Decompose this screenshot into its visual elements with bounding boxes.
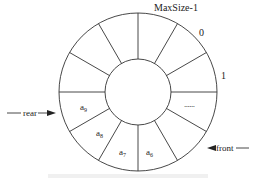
element-a8: a8 [96, 128, 103, 139]
slot-divider [70, 109, 110, 132]
label-ellipsis: ...... [184, 99, 195, 109]
circular-queue-diagram: MaxSize-1 0 1 ...... a9 a8 a7 a6 rear fr… [0, 0, 254, 178]
slot-divider [155, 121, 178, 161]
caption-faded [48, 174, 208, 178]
slot-divider [99, 24, 122, 64]
element-a6: a6 [146, 147, 153, 158]
rear-pointer: rear [7, 108, 56, 118]
ring [59, 13, 217, 171]
slot-divider [167, 53, 207, 76]
rear-label: rear [23, 108, 37, 118]
element-a9: a9 [80, 102, 87, 113]
front-label: front [216, 143, 234, 153]
inner-circle [105, 59, 171, 125]
slot-divider [70, 53, 110, 76]
slot-dividers [59, 13, 217, 171]
front-pointer: front [207, 143, 249, 153]
label-slot-0: 0 [199, 27, 204, 38]
element-a7: a7 [119, 147, 126, 158]
label-maxsize-minus-1: MaxSize-1 [154, 2, 198, 13]
slot-divider [155, 24, 178, 64]
rear-arrowhead-icon [47, 110, 56, 116]
slot-divider [167, 109, 207, 132]
label-slot-1: 1 [221, 70, 226, 81]
